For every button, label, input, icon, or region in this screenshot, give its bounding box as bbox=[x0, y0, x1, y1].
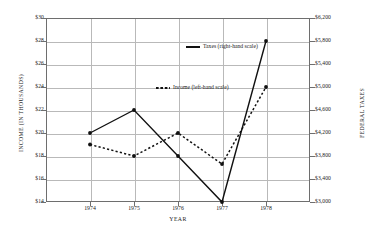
x-axis-tick-label: 1975 bbox=[114, 206, 154, 212]
data-point-marker bbox=[176, 131, 180, 135]
y-axis-right-title: FEDERAL TAXES bbox=[359, 48, 365, 178]
y-axis-left-tick-label: $30 bbox=[2, 15, 44, 21]
y-axis-right-tick-label: $4,200 bbox=[315, 130, 355, 136]
x-axis-tick-label: 1974 bbox=[70, 206, 110, 212]
data-point-marker bbox=[88, 131, 92, 135]
x-axis-tick-mark bbox=[178, 202, 179, 206]
legend-label-income: Income (left-hand scale) bbox=[173, 85, 229, 91]
y-axis-left-title: INCOME (IN THOUSANDS) bbox=[18, 48, 24, 178]
legend-item-taxes: Taxes (right-hand scale) bbox=[186, 44, 258, 50]
y-axis-right-tick-mark bbox=[310, 133, 315, 134]
x-axis-tick-mark bbox=[134, 202, 135, 206]
y-axis-right-tick-label: $5,400 bbox=[315, 61, 355, 67]
data-point-marker bbox=[220, 200, 224, 204]
y-axis-right-tick-label: $3,800 bbox=[315, 153, 355, 159]
y-axis-right-tick-mark bbox=[310, 110, 315, 111]
data-point-marker bbox=[264, 39, 268, 43]
x-axis-tick-label: 1977 bbox=[202, 206, 242, 212]
y-axis-right-tick-label: $3,000 bbox=[315, 199, 355, 205]
series-line-taxes bbox=[90, 41, 266, 202]
legend-line-solid-icon bbox=[186, 44, 200, 49]
legend-label-taxes: Taxes (right-hand scale) bbox=[203, 44, 258, 50]
data-series-layer bbox=[46, 18, 310, 202]
y-axis-right-tick-label: $5,000 bbox=[315, 84, 355, 90]
data-point-marker bbox=[220, 162, 224, 166]
y-axis-right-tick-label: $5,800 bbox=[315, 38, 355, 44]
y-axis-right-tick-mark bbox=[310, 202, 315, 203]
y-axis-right-tick-mark bbox=[310, 87, 315, 88]
data-point-marker bbox=[88, 143, 92, 147]
y-axis-right-tick-mark bbox=[310, 179, 315, 180]
legend-line-dotted-icon bbox=[156, 85, 170, 90]
y-axis-right-tick-label: $6,200 bbox=[315, 15, 355, 21]
series-line-income bbox=[90, 87, 266, 164]
data-point-marker bbox=[176, 154, 180, 158]
data-point-marker bbox=[264, 85, 268, 89]
y-axis-right-tick-mark bbox=[310, 156, 315, 157]
x-axis-tick-label: 1978 bbox=[246, 206, 286, 212]
x-axis-tick-mark bbox=[266, 202, 267, 206]
y-axis-right-tick-mark bbox=[310, 41, 315, 42]
data-point-marker bbox=[132, 108, 136, 112]
y-axis-right-tick-label: $3,400 bbox=[315, 176, 355, 182]
legend-item-income: Income (left-hand scale) bbox=[156, 85, 229, 91]
y-axis-left-tick-label: $14 bbox=[2, 199, 44, 205]
data-point-marker bbox=[132, 154, 136, 158]
y-axis-right-tick-mark bbox=[310, 64, 315, 65]
y-axis-right-tick-label: $4,600 bbox=[315, 107, 355, 113]
y-axis-left-tick-label: $28 bbox=[2, 38, 44, 44]
x-axis-tick-label: 1976 bbox=[158, 206, 198, 212]
chart-container: $30$28$26$24$22$20$18$16$14 $6,200$5,800… bbox=[0, 0, 369, 247]
y-axis-right-tick-mark bbox=[310, 18, 315, 19]
x-axis-tick-mark bbox=[90, 202, 91, 206]
y-axis-left-tick-mark bbox=[41, 202, 46, 203]
x-axis-title: YEAR bbox=[46, 216, 310, 222]
